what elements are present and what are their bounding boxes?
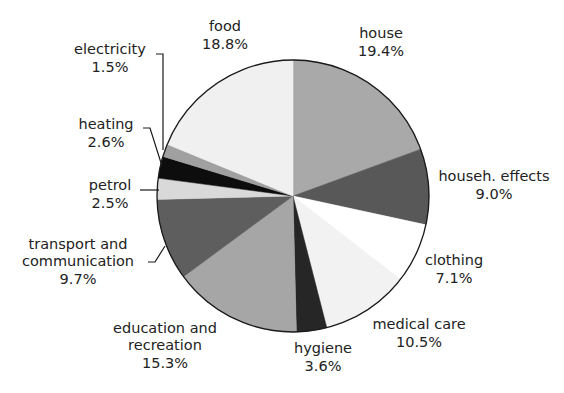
label-food-value: 18.8%: [202, 36, 248, 53]
label-food: food 18.8%: [202, 18, 248, 53]
label-medical-care-value: 10.5%: [372, 334, 465, 351]
label-food-name: food: [202, 18, 248, 35]
label-petrol-name: petrol: [89, 177, 131, 194]
label-petrol-value: 2.5%: [89, 195, 131, 212]
label-education-line2: recreation: [113, 337, 217, 354]
label-transport-line2: communication: [22, 253, 134, 270]
label-house-value: 19.4%: [358, 43, 404, 60]
label-education-value: 15.3%: [113, 355, 217, 372]
label-hygiene: hygiene 3.6%: [294, 340, 352, 375]
label-electricity: electricity 1.5%: [74, 41, 146, 76]
label-house-name: house: [358, 25, 404, 42]
label-medical-care: medical care 10.5%: [372, 316, 465, 351]
label-clothing-name: clothing: [425, 252, 483, 269]
label-electricity-name: electricity: [74, 41, 146, 58]
label-heating: heating 2.6%: [78, 116, 133, 151]
label-house: house 19.4%: [358, 25, 404, 60]
label-medical-care-name: medical care: [372, 316, 465, 333]
label-transport: transport and communication 9.7%: [22, 236, 134, 288]
label-clothing: clothing 7.1%: [425, 252, 483, 287]
label-househ-effects: househ. effects 9.0%: [438, 168, 549, 203]
label-electricity-value: 1.5%: [74, 59, 146, 76]
label-househ-effects-value: 9.0%: [438, 186, 549, 203]
label-heating-value: 2.6%: [78, 134, 133, 151]
label-clothing-value: 7.1%: [425, 270, 483, 287]
label-househ-effects-name: househ. effects: [438, 168, 549, 185]
leader-line-transport: [148, 246, 165, 262]
label-education-line1: education and: [113, 320, 217, 337]
label-hygiene-value: 3.6%: [294, 358, 352, 375]
label-hygiene-name: hygiene: [294, 340, 352, 357]
label-transport-value: 9.7%: [22, 271, 134, 288]
pie-slices: [157, 60, 429, 332]
label-transport-line1: transport and: [22, 236, 134, 253]
label-education: education and recreation 15.3%: [113, 320, 217, 372]
leader-line-electricity: [156, 54, 163, 150]
label-petrol: petrol 2.5%: [89, 177, 131, 212]
label-heating-name: heating: [78, 116, 133, 133]
leader-line-heating: [143, 128, 162, 166]
